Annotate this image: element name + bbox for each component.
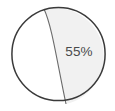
pie-chart-svg: 55% xyxy=(0,0,115,111)
pie-chart-figure: 55% xyxy=(0,0,115,111)
pie-slice-label-55: 55% xyxy=(65,44,93,59)
